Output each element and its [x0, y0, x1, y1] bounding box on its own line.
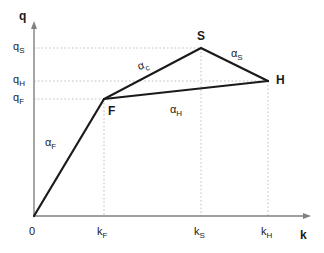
- slope-label-alphaF: αF: [45, 137, 56, 151]
- vertex-label-F: F: [108, 105, 115, 117]
- x-tick-kH: kH: [261, 226, 272, 240]
- y-tick-qS: qS: [13, 41, 24, 55]
- y-tick-qH-sub: H: [19, 79, 25, 88]
- vertex-label-S: S: [197, 30, 205, 42]
- x-tick-kF-sub: F: [103, 231, 108, 240]
- axes: [34, 26, 305, 216]
- curve-fh: [104, 81, 268, 99]
- slope-label-alphaS: αS: [231, 48, 243, 62]
- x-axis-arrow: [303, 213, 311, 219]
- y-axis-title: q: [19, 10, 26, 22]
- slope-alphaH-sub: H: [176, 109, 182, 118]
- x-tick-kF: kF: [97, 226, 107, 240]
- x-tick-kS: kS: [194, 226, 205, 240]
- curve-ofsh: [34, 48, 268, 216]
- y-axis-arrow: [31, 21, 37, 29]
- x-axis-title: k: [300, 229, 307, 241]
- slope-alphaS-sub: S: [237, 53, 242, 62]
- diagram-canvas: q k 0 qS qH qF kF kS kH F S H αF αc αS α…: [0, 0, 324, 253]
- plot-area: [0, 0, 324, 253]
- y-tick-qF: qF: [13, 92, 24, 106]
- slope-label-alphaH: αH: [170, 104, 182, 118]
- x-tick-kS-sub: S: [200, 231, 205, 240]
- y-tick-qH: qH: [13, 74, 25, 88]
- origin-label: 0: [29, 226, 35, 237]
- x-tick-kH-sub: H: [267, 231, 273, 240]
- slope-alphaF-sub: F: [51, 142, 56, 151]
- y-tick-qF-sub: F: [19, 97, 24, 106]
- y-tick-qS-sub: S: [19, 46, 24, 55]
- vertex-label-H: H: [276, 74, 285, 86]
